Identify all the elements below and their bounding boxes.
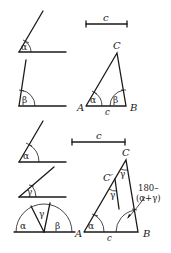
vertex-label-b: B — [142, 228, 150, 239]
given-angle-alpha-top: α — [19, 11, 66, 52]
angle-label-beta: β — [55, 221, 60, 231]
vertex-label-b: B — [129, 102, 137, 113]
annotation-line-2: (α+γ) — [136, 193, 161, 203]
angle-label-alpha: α — [20, 221, 26, 231]
arc-tick — [132, 209, 137, 210]
angle-label-gamma-c-prime: γ — [110, 190, 115, 200]
vertex-label-c: C — [113, 40, 121, 51]
angle-label-alpha: α — [90, 95, 96, 105]
beta-ray — [44, 203, 50, 232]
angle-label-alpha: α — [23, 151, 29, 161]
annotation-line-1: 180– — [138, 183, 158, 193]
vertex-label-c-prime: C′ — [103, 172, 114, 183]
angle-ray — [19, 167, 54, 197]
side-label-c: c — [105, 107, 110, 117]
angle-sum-semicircle: α γ β — [14, 203, 75, 232]
arc-tick — [19, 90, 24, 91]
angle-label-gamma: γ — [39, 209, 44, 219]
angle-label-beta: β — [22, 95, 27, 105]
triangle-abc-top: α β A B C c — [76, 40, 137, 117]
angle-arc — [29, 145, 39, 162]
angle-label-beta: β — [113, 95, 118, 105]
angle-label-alpha: α — [88, 221, 94, 231]
given-segment-c-bottom: c — [72, 130, 125, 145]
angle-label-gamma-c: γ — [120, 169, 125, 179]
vertex-label-c: C — [122, 147, 130, 158]
vertex-label-a: A — [74, 228, 82, 239]
given-segment-c-top: c — [86, 12, 127, 27]
angle-arc-a — [94, 215, 104, 232]
angle-label-alpha: α — [21, 42, 27, 52]
segment-label-c: c — [103, 12, 109, 23]
arrow-head-icon — [127, 214, 131, 219]
given-angle-beta-top: β — [19, 60, 66, 106]
angle-arc — [32, 186, 36, 197]
side-label-c: c — [107, 233, 112, 243]
construction-diagram: α β c α β A B C c α — [0, 0, 171, 253]
given-angle-gamma-bottom: γ — [19, 167, 66, 197]
triangle-abc-bottom: α γ γ 180– (α+γ) A B C C′ c — [74, 147, 161, 243]
vertex-label-a: A — [76, 102, 84, 113]
parallel-construction-line — [115, 179, 119, 209]
segment-label-c: c — [96, 130, 102, 141]
given-angle-alpha-bottom: α — [19, 121, 66, 162]
angle-label-gamma: γ — [27, 187, 32, 197]
